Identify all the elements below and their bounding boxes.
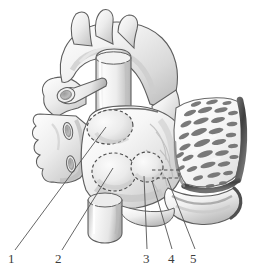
label-3: 3 bbox=[143, 252, 150, 265]
label-1: 1 bbox=[8, 252, 15, 265]
label-2: 2 bbox=[55, 252, 62, 265]
label-4: 4 bbox=[168, 252, 175, 265]
label-5: 5 bbox=[190, 252, 197, 265]
anatomical-figure: 1 2 3 4 5 bbox=[0, 0, 257, 275]
trabeculated-myocardial-flap bbox=[174, 98, 244, 191]
atrioventricular-groove-fold bbox=[165, 188, 241, 224]
heart-illustration-svg bbox=[0, 0, 257, 275]
